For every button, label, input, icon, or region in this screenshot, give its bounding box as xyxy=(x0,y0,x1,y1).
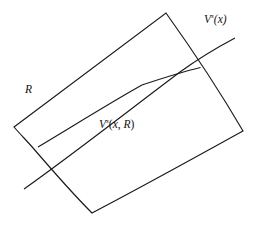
inner-stable-arc xyxy=(38,68,201,148)
diagram-canvas xyxy=(0,0,259,229)
argument-x: (x) xyxy=(214,13,227,25)
argument-r: R xyxy=(124,118,131,130)
label-region-r: R xyxy=(25,84,32,96)
transversal-stable-line xyxy=(24,38,235,189)
figure-container: Vs(x) Vs(x, R) R xyxy=(0,0,259,229)
label-inner-curve-vs-x-r: Vs(x, R) xyxy=(99,119,134,131)
label-transversal-vs-x: Vs(x) xyxy=(204,14,227,26)
paren-close: ) xyxy=(131,118,135,130)
rectangle-region-outline xyxy=(14,13,243,213)
